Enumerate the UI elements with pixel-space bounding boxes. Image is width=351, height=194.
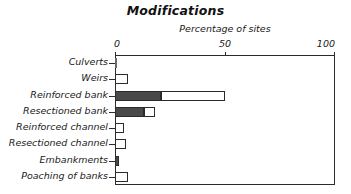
chart-figure: Modifications Percentage of sites 050100… bbox=[0, 0, 351, 194]
x-tick-label: 0 bbox=[114, 38, 120, 49]
bar-segment bbox=[115, 74, 128, 84]
chart-title: Modifications bbox=[0, 3, 351, 18]
bar-segment bbox=[161, 91, 225, 101]
x-tick-label: 50 bbox=[219, 38, 231, 49]
bar-row bbox=[0, 139, 351, 149]
bar-segment bbox=[115, 156, 119, 166]
bar-segment bbox=[115, 139, 126, 149]
bar-segment bbox=[115, 123, 124, 133]
bar-row bbox=[0, 91, 351, 101]
bar-row bbox=[0, 156, 351, 166]
bar-segment bbox=[144, 107, 155, 117]
bar-row bbox=[0, 123, 351, 133]
bar-row bbox=[0, 107, 351, 117]
bar-row bbox=[0, 172, 351, 182]
bar-row bbox=[0, 74, 351, 84]
bar-segment bbox=[115, 107, 144, 117]
bar-segment bbox=[115, 58, 117, 68]
bar-segment bbox=[115, 172, 128, 182]
bar-row bbox=[0, 58, 351, 68]
bar-segment bbox=[115, 91, 161, 101]
x-tick-label: 100 bbox=[317, 38, 335, 49]
x-axis-title: Percentage of sites bbox=[115, 23, 335, 34]
